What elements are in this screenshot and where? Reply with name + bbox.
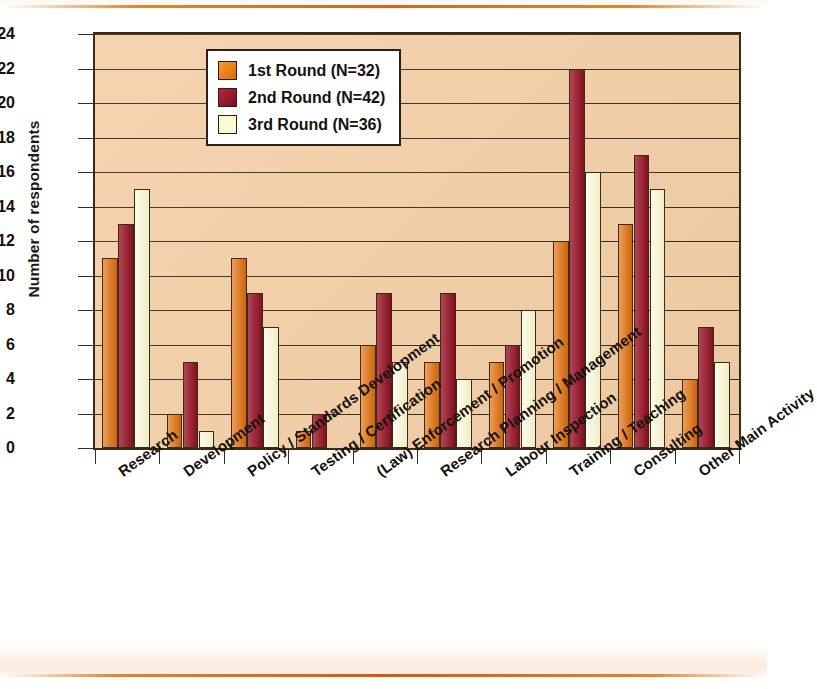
legend-swatch-2nd-round bbox=[218, 88, 237, 107]
legend-item-label: 1st Round (N=32) bbox=[248, 62, 380, 80]
y-tick-label-14: 14 bbox=[0, 199, 15, 215]
y-tick-mark-0 bbox=[78, 448, 93, 449]
bar bbox=[521, 310, 537, 448]
bar bbox=[634, 155, 650, 448]
y-tick-mark-18 bbox=[78, 138, 93, 139]
legend-item: 1st Round (N=32) bbox=[218, 57, 385, 84]
y-tick-mark-10 bbox=[78, 276, 93, 277]
chart-legend: 1st Round (N=32)2nd Round (N=42)3rd Roun… bbox=[206, 49, 401, 146]
y-tick-label-12: 12 bbox=[0, 233, 15, 249]
legend-item: 3rd Round (N=36) bbox=[218, 111, 385, 138]
bar bbox=[263, 327, 279, 448]
y-tick-label-20: 20 bbox=[0, 95, 15, 111]
legend-item-label: 3rd Round (N=36) bbox=[248, 116, 382, 134]
y-tick-label-0: 0 bbox=[0, 440, 15, 456]
y-tick-mark-12 bbox=[78, 241, 93, 242]
y-tick-label-24: 24 bbox=[0, 26, 15, 42]
bar bbox=[714, 362, 730, 448]
y-tick-mark-6 bbox=[78, 345, 93, 346]
y-tick-label-18: 18 bbox=[0, 130, 15, 146]
y-tick-mark-8 bbox=[78, 310, 93, 311]
legend-swatch-3rd-round bbox=[218, 115, 237, 134]
bar bbox=[183, 362, 199, 448]
y-tick-mark-4 bbox=[78, 379, 93, 380]
bar-group bbox=[675, 34, 739, 448]
y-tick-label-22: 22 bbox=[0, 61, 15, 77]
y-tick-mark-16 bbox=[78, 172, 93, 173]
y-tick-mark-24 bbox=[78, 34, 93, 35]
bar bbox=[134, 189, 150, 448]
y-tick-label-8: 8 bbox=[0, 302, 15, 318]
y-tick-label-16: 16 bbox=[0, 164, 15, 180]
bar bbox=[102, 258, 118, 448]
bar bbox=[118, 224, 134, 448]
y-tick-mark-2 bbox=[78, 414, 93, 415]
y-tick-label-10: 10 bbox=[0, 268, 15, 284]
bar-group bbox=[95, 34, 159, 448]
x-tick-mark bbox=[95, 450, 96, 464]
y-tick-mark-14 bbox=[78, 207, 93, 208]
y-axis-title: Number of respondents bbox=[25, 79, 43, 339]
legend-swatch-1st-round bbox=[218, 61, 237, 80]
bar-group bbox=[610, 34, 674, 448]
y-tick-label-6: 6 bbox=[0, 337, 15, 353]
y-tick-label-4: 4 bbox=[0, 371, 15, 387]
y-tick-mark-22 bbox=[78, 69, 93, 70]
bar bbox=[569, 69, 585, 449]
legend-item: 2nd Round (N=42) bbox=[218, 84, 385, 111]
y-tick-mark-20 bbox=[78, 103, 93, 104]
y-tick-label-2: 2 bbox=[0, 406, 15, 422]
legend-item-label: 2nd Round (N=42) bbox=[248, 89, 385, 107]
